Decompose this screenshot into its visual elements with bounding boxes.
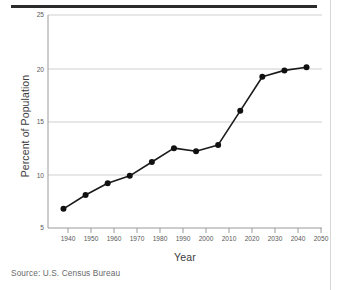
data-point-1960 bbox=[105, 180, 111, 186]
gridlines bbox=[48, 15, 322, 175]
data-point-2020 bbox=[237, 108, 243, 114]
data-series-line bbox=[63, 67, 306, 209]
data-point-1980 bbox=[149, 159, 155, 165]
data-point-1990 bbox=[171, 145, 177, 151]
data-point-2050 bbox=[304, 64, 310, 70]
data-point-1950 bbox=[83, 192, 89, 198]
figure-container: Percent of Population Year 25 20 15 10 5… bbox=[0, 0, 339, 290]
data-point-2040 bbox=[281, 67, 287, 73]
data-point-2010 bbox=[215, 142, 221, 148]
data-point-1940 bbox=[60, 206, 66, 212]
source-note: Source: U.S. Census Bureau bbox=[11, 268, 120, 278]
chart-svg bbox=[0, 0, 339, 290]
x-tick-marks bbox=[68, 228, 321, 233]
chart-plot-wrapper: Percent of Population Year 25 20 15 10 5… bbox=[0, 0, 339, 290]
data-point-2030 bbox=[259, 74, 265, 80]
data-series-markers bbox=[60, 64, 309, 212]
data-point-2000 bbox=[193, 148, 199, 154]
data-point-1970 bbox=[127, 173, 133, 179]
